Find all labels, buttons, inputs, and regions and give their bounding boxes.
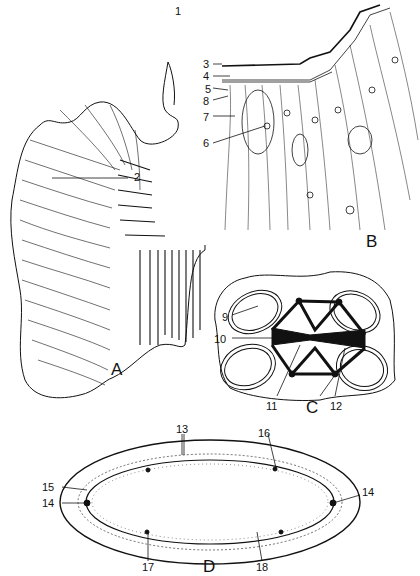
marker-1: 1	[175, 6, 181, 17]
marker-16: 16	[258, 428, 270, 439]
panel-a-drawing	[11, 62, 205, 398]
panel-label-d: D	[203, 557, 215, 576]
marker-10: 10	[214, 334, 226, 345]
marker-8: 8	[203, 96, 209, 107]
panel-label-b: B	[366, 232, 377, 252]
marker-14-left: 14	[42, 498, 54, 509]
panel-d-drawing	[60, 440, 360, 564]
marker-9: 9	[222, 312, 228, 323]
marker-4: 4	[203, 71, 209, 82]
marker-7: 7	[203, 112, 209, 123]
marker-13: 13	[176, 424, 188, 435]
marker-12: 12	[330, 401, 342, 412]
marker-2: 2	[134, 172, 140, 183]
marker-6: 6	[203, 138, 209, 149]
panel-c-drawing	[214, 272, 395, 401]
marker-17: 17	[142, 562, 154, 573]
marker-15: 15	[42, 482, 54, 493]
marker-11: 11	[266, 401, 277, 412]
marker-5: 5	[205, 84, 211, 95]
panel-label-a: A	[111, 360, 122, 380]
marker-14-right: 14	[362, 487, 374, 498]
marker-18: 18	[256, 562, 268, 573]
panel-b-drawing	[222, 5, 418, 230]
marker-3: 3	[203, 59, 209, 70]
panel-label-c: C	[306, 398, 318, 418]
